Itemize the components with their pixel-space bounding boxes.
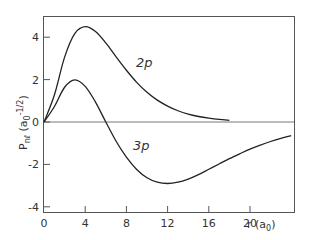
- y-tick-label: 0: [32, 116, 39, 129]
- x-tick-label: 8: [123, 217, 130, 230]
- y-tick-label: -2: [28, 158, 39, 171]
- x-axis-title: r (a0): [247, 218, 275, 233]
- label-2p: 2p: [136, 55, 153, 70]
- y-tick-label: 2: [32, 74, 39, 87]
- x-axis-ticks: 048121620: [41, 206, 258, 230]
- x-tick-label: 0: [41, 217, 48, 230]
- x-tick-label: 16: [202, 217, 216, 230]
- curve-2p: [44, 27, 229, 122]
- y-axis-ticks: -4-2024: [28, 31, 50, 214]
- y-tick-label: -4: [28, 201, 39, 214]
- x-tick-label: 12: [161, 217, 175, 230]
- curve-3p: [44, 80, 291, 184]
- radial-wavefunction-chart: -4-2024 048121620 2p 3p r (a0) Pnℓ (a0-1…: [0, 0, 310, 240]
- y-axis-title: Pnℓ (a0-1/2): [16, 95, 32, 150]
- label-3p: 3p: [133, 138, 150, 153]
- x-tick-label: 4: [82, 217, 89, 230]
- y-tick-label: 4: [32, 31, 39, 44]
